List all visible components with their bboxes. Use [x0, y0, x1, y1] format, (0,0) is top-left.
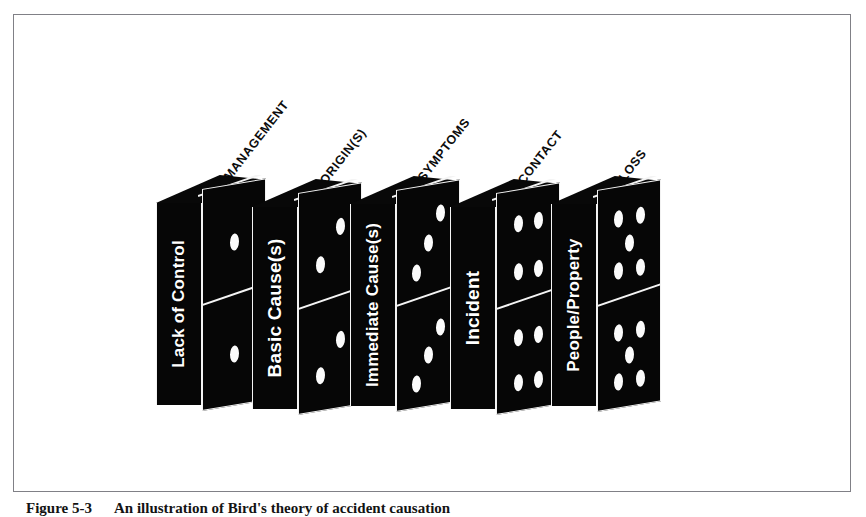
domino-pip: [336, 330, 345, 349]
domino-pip: [636, 206, 645, 225]
domino-pip: [424, 234, 433, 253]
domino-front-face: [597, 179, 661, 412]
domino-pip: [625, 346, 634, 365]
domino-stage-label: Lack of Control: [169, 240, 189, 368]
domino-pip: [625, 234, 634, 253]
domino-pip: [636, 258, 645, 277]
domino-pip: [636, 320, 645, 339]
domino-pip: [636, 369, 645, 388]
domino-pip: [424, 346, 433, 365]
domino-pip: [614, 373, 623, 392]
domino-pip: [534, 211, 543, 230]
domino-pip: [316, 255, 325, 274]
domino-pip: [436, 204, 445, 223]
domino-pip: [230, 345, 239, 364]
figure-caption: Figure 5-3An illustration of Bird's theo…: [26, 500, 846, 517]
domino-block: LOSSPeople/Property: [551, 176, 675, 406]
domino-pip: [436, 318, 445, 337]
domino-sequence-diagram: MANAGEMENTLack of ControlORIGIN(S)Basic …: [13, 14, 851, 492]
domino-pip: [412, 375, 421, 394]
domino-divider-line: [598, 278, 661, 307]
domino-left-face: Lack of Control: [156, 203, 202, 405]
domino-pip: [412, 264, 421, 283]
domino-left-face: Basic Cause(s): [252, 207, 298, 409]
domino-stage-label: People/Property: [564, 238, 584, 371]
figure-illustration: MANAGEMENTLack of ControlORIGIN(S)Basic …: [0, 0, 866, 517]
domino-stage-label: Incident: [462, 271, 484, 345]
domino-pip: [336, 217, 345, 236]
domino-pip: [534, 325, 543, 344]
domino-left-face: Immediate Cause(s): [350, 204, 396, 406]
domino-stage-label: Immediate Cause(s): [363, 223, 383, 387]
domino-tag-label: SYMPTOMS: [415, 115, 473, 184]
domino-pip: [514, 374, 523, 393]
domino-stage-label: Basic Cause(s): [264, 238, 286, 377]
domino-pip: [534, 259, 543, 278]
domino-pip: [514, 263, 523, 282]
domino-pip: [514, 215, 523, 234]
domino-pip: [514, 328, 523, 347]
domino-pip: [614, 210, 623, 229]
figure-caption-label: Figure 5-3: [26, 500, 92, 516]
domino-pip: [614, 262, 623, 281]
domino-left-face: Incident: [450, 207, 496, 409]
domino-tag-label: MANAGEMENT: [221, 98, 292, 183]
domino-pip: [614, 323, 623, 342]
domino-pip: [534, 370, 543, 389]
figure-caption-text: An illustration of Bird's theory of acci…: [114, 500, 450, 516]
domino-pip: [316, 367, 325, 386]
domino-left-face: People/Property: [551, 204, 597, 406]
domino-pip: [230, 233, 239, 252]
